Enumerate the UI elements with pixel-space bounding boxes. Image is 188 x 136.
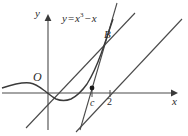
x-axis-label: x xyxy=(172,96,177,107)
equation-term: x xyxy=(92,12,97,24)
y-axis-arrowhead xyxy=(45,14,52,21)
math-figure: y x O B c 2 y=x3−x xyxy=(0,0,188,136)
equation-minus: − xyxy=(84,12,92,24)
tick-label-2: 2 xyxy=(107,97,112,107)
point-b-label: B xyxy=(104,29,111,40)
secant-line-through-origin xyxy=(26,13,135,128)
origin-label: O xyxy=(33,71,42,83)
y-axis xyxy=(45,14,52,130)
equation-equals: = xyxy=(67,12,75,24)
y-axis-label: y xyxy=(35,8,40,19)
equation-exponent: 3 xyxy=(80,11,84,19)
cubic-curve xyxy=(2,19,113,101)
marked-point-c xyxy=(90,86,95,91)
tick-label-c: c xyxy=(90,98,94,108)
curve-equation-label: y=x3−x xyxy=(62,12,97,24)
